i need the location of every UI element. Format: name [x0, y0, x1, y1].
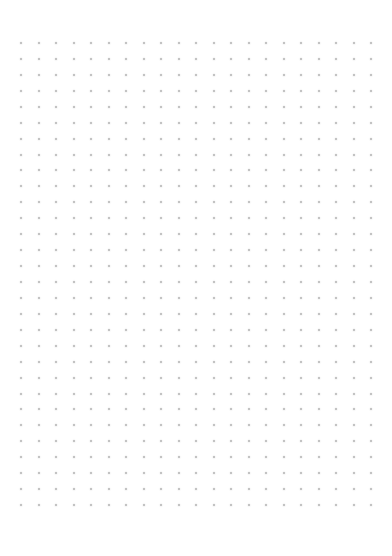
grid-dot — [353, 329, 355, 331]
grid-dot — [55, 154, 57, 156]
grid-dot — [230, 361, 232, 363]
grid-dot — [125, 74, 127, 76]
grid-dot — [370, 345, 372, 347]
grid-dot — [20, 297, 22, 299]
grid-dot — [178, 472, 180, 474]
grid-dot — [90, 90, 92, 92]
grid-dot — [318, 329, 320, 331]
grid-dot — [108, 249, 110, 251]
grid-dot — [300, 345, 302, 347]
grid-dot — [335, 297, 337, 299]
grid-dot — [265, 313, 267, 315]
grid-dot — [90, 329, 92, 331]
grid-dot — [73, 456, 75, 458]
grid-dot — [335, 408, 337, 410]
grid-dot — [20, 472, 22, 474]
grid-dot — [195, 456, 197, 458]
grid-dot — [283, 361, 285, 363]
grid-dot — [178, 424, 180, 426]
grid-dot — [265, 138, 267, 140]
grid-dot — [265, 408, 267, 410]
grid-dot — [213, 472, 215, 474]
grid-dot — [20, 361, 22, 363]
grid-dot — [38, 233, 40, 235]
grid-dot — [195, 249, 197, 251]
grid-dot — [335, 169, 337, 171]
grid-dot — [143, 233, 145, 235]
grid-dot — [125, 90, 127, 92]
grid-dot — [125, 345, 127, 347]
grid-dot — [38, 297, 40, 299]
grid-dot — [125, 440, 127, 442]
grid-dot — [335, 472, 337, 474]
grid-dot — [38, 106, 40, 108]
grid-dot — [265, 281, 267, 283]
grid-dot — [38, 472, 40, 474]
grid-dot — [335, 217, 337, 219]
grid-dot — [300, 456, 302, 458]
grid-dot — [108, 90, 110, 92]
grid-dot — [370, 377, 372, 379]
grid-dot — [283, 440, 285, 442]
grid-dot — [318, 74, 320, 76]
grid-dot — [335, 281, 337, 283]
grid-dot — [73, 440, 75, 442]
grid-dot — [55, 138, 57, 140]
grid-dot — [318, 408, 320, 410]
grid-dot — [353, 90, 355, 92]
grid-dot — [160, 249, 162, 251]
grid-dot — [178, 361, 180, 363]
grid-dot — [195, 408, 197, 410]
grid-dot — [335, 393, 337, 395]
grid-dot — [38, 58, 40, 60]
grid-dot — [195, 90, 197, 92]
grid-dot — [143, 313, 145, 315]
grid-dot — [318, 488, 320, 490]
grid-dot — [353, 408, 355, 410]
grid-dot — [20, 345, 22, 347]
grid-dot — [335, 90, 337, 92]
grid-dot — [213, 201, 215, 203]
grid-dot — [300, 313, 302, 315]
grid-dot — [108, 297, 110, 299]
grid-dot — [370, 408, 372, 410]
grid-dot — [178, 169, 180, 171]
grid-dot — [90, 313, 92, 315]
grid-dot — [73, 217, 75, 219]
grid-dot — [195, 472, 197, 474]
grid-dot — [143, 74, 145, 76]
grid-dot — [283, 233, 285, 235]
grid-dot — [283, 138, 285, 140]
grid-dot — [195, 169, 197, 171]
grid-dot — [195, 377, 197, 379]
grid-dot — [160, 233, 162, 235]
grid-dot — [370, 138, 372, 140]
grid-dot — [248, 185, 250, 187]
grid-dot — [108, 281, 110, 283]
grid-dot — [353, 249, 355, 251]
grid-dot — [248, 217, 250, 219]
grid-dot — [248, 329, 250, 331]
grid-dot — [300, 472, 302, 474]
grid-dot — [370, 90, 372, 92]
grid-dot — [20, 154, 22, 156]
grid-dot — [370, 106, 372, 108]
grid-dot — [248, 472, 250, 474]
grid-dot — [143, 138, 145, 140]
grid-dot — [265, 90, 267, 92]
grid-dot — [265, 345, 267, 347]
grid-dot — [55, 233, 57, 235]
grid-dot — [230, 201, 232, 203]
grid-dot — [55, 456, 57, 458]
grid-dot — [283, 329, 285, 331]
grid-dot — [38, 313, 40, 315]
grid-dot — [178, 393, 180, 395]
grid-dot — [73, 281, 75, 283]
grid-dot — [248, 138, 250, 140]
grid-dot — [160, 297, 162, 299]
grid-dot — [90, 265, 92, 267]
grid-dot — [73, 154, 75, 156]
grid-dot — [213, 408, 215, 410]
grid-dot — [178, 313, 180, 315]
grid-dot — [160, 440, 162, 442]
